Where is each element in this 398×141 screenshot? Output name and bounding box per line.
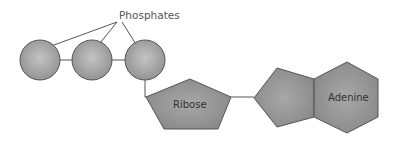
- phosphate-ribose-bond: [145, 80, 147, 97]
- phosphates-label: Phosphates: [119, 10, 180, 21]
- adenine-label: Adenine: [328, 93, 369, 103]
- atp-diagram: [0, 0, 398, 141]
- phosphate-1: [20, 40, 60, 80]
- ribose-label: Ribose: [173, 100, 207, 110]
- phosphate-2: [72, 40, 112, 80]
- adenine-pentagon: [254, 68, 314, 127]
- phosphate-3: [125, 40, 165, 80]
